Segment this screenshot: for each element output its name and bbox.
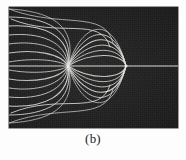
plot-panel bbox=[9, 7, 178, 128]
figure-container: (b) bbox=[0, 0, 186, 160]
right-cusp bbox=[124, 64, 127, 67]
panel-background bbox=[9, 7, 178, 128]
figure-caption: (b) bbox=[0, 131, 186, 147]
field-line-plot bbox=[9, 7, 178, 128]
left-node bbox=[66, 64, 69, 67]
